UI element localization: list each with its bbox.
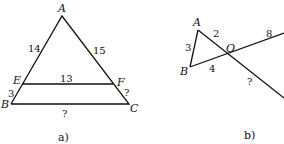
- vertex-b-label: B: [0, 98, 9, 111]
- vertex-e-label: E: [12, 74, 21, 87]
- length-ae: 14: [28, 43, 41, 54]
- length-ab: 3: [185, 42, 191, 53]
- caption-b: b): [244, 129, 255, 142]
- vertex-a-label: A: [192, 16, 201, 29]
- length-ao: 2: [213, 28, 219, 39]
- length-eb: 3: [8, 88, 14, 99]
- geometry-figures: A B C E F 14 15 13 3 ? ? a) A B O 3 2 4 …: [0, 0, 284, 144]
- vertex-c-label: C: [130, 102, 139, 115]
- length-af: 15: [93, 45, 106, 56]
- length-bo: 4: [209, 63, 215, 74]
- vertex-o-label: O: [226, 42, 235, 55]
- vertex-b-label: B: [179, 65, 188, 78]
- length-bc: ?: [62, 108, 67, 119]
- length-fc: ?: [124, 87, 129, 98]
- caption-a: a): [58, 131, 69, 144]
- triangle-abc: [11, 16, 129, 104]
- figure-b: A B O 3 2 4 8 ? b): [179, 16, 284, 142]
- vertex-a-label: A: [57, 2, 66, 15]
- length-ef: 13: [60, 73, 73, 84]
- length-o-ray-down: ?: [247, 76, 252, 87]
- figure-a: A B C E F 14 15 13 3 ? ? a): [0, 2, 139, 144]
- length-o-ray-up: 8: [266, 28, 272, 39]
